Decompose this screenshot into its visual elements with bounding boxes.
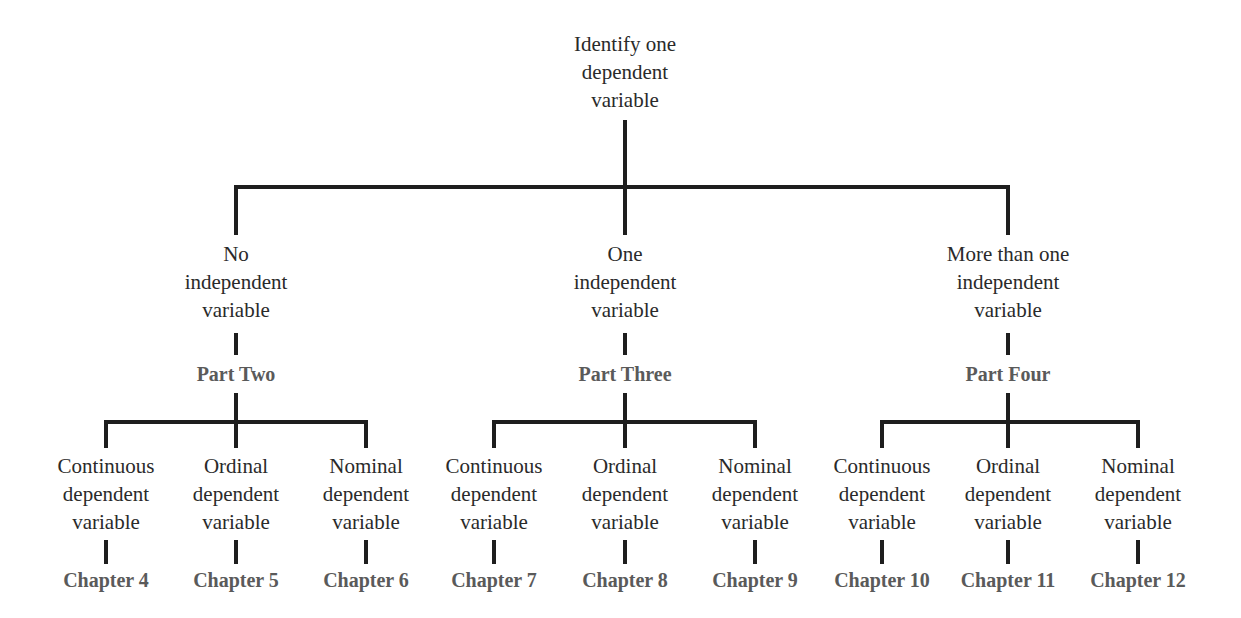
leaf-node-nominal: Nominal dependent variable xyxy=(323,452,409,536)
leaf-drop xyxy=(364,420,368,448)
leaf-line: variable xyxy=(965,508,1051,536)
leaf-drop xyxy=(492,420,496,448)
root-node: Identify one dependent variable xyxy=(574,30,676,114)
branch-1-part-stem xyxy=(234,333,238,355)
chapter-stem xyxy=(104,540,108,564)
leaf-line: dependent xyxy=(1095,480,1181,508)
part-label: Part Two xyxy=(197,362,276,386)
leaf-line: variable xyxy=(834,508,931,536)
chapter-label: Chapter 11 xyxy=(961,568,1056,592)
leaf-line: variable xyxy=(446,508,543,536)
leaf-node-nominal: Nominal dependent variable xyxy=(1095,452,1181,536)
top-bar xyxy=(234,185,1010,189)
leaf-line: dependent xyxy=(582,480,668,508)
branch-3-part-stem xyxy=(1006,333,1010,355)
leaf-line: variable xyxy=(582,508,668,536)
leaf-line: Ordinal xyxy=(193,452,279,480)
leaf-line: Ordinal xyxy=(965,452,1051,480)
branch-3-drop xyxy=(1006,185,1010,235)
leaf-node-continuous: Continuous dependent variable xyxy=(834,452,931,536)
leaf-line: variable xyxy=(58,508,155,536)
branch-line: variable xyxy=(185,296,288,324)
leaf-line: variable xyxy=(712,508,798,536)
root-line-2: dependent xyxy=(574,58,676,86)
leaf-drop xyxy=(104,420,108,448)
chapter-stem xyxy=(623,540,627,564)
leaf-line: Nominal xyxy=(1095,452,1181,480)
leaf-drop xyxy=(1136,420,1140,448)
leaf-drop xyxy=(1006,420,1010,448)
chapter-stem xyxy=(364,540,368,564)
leaf-line: Continuous xyxy=(834,452,931,480)
leaf-line: dependent xyxy=(446,480,543,508)
leaf-line: dependent xyxy=(834,480,931,508)
leaf-line: dependent xyxy=(58,480,155,508)
chapter-stem xyxy=(1136,540,1140,564)
chapter-label: Chapter 5 xyxy=(193,568,279,592)
chapter-label: Chapter 4 xyxy=(63,568,149,592)
leaf-node-ordinal: Ordinal dependent variable xyxy=(582,452,668,536)
chapter-label: Chapter 8 xyxy=(582,568,668,592)
branch-node-multi-iv: More than one independent variable xyxy=(947,240,1069,324)
part-label: Part Three xyxy=(578,362,671,386)
leaf-drop xyxy=(234,420,238,448)
chapter-label: Chapter 12 xyxy=(1090,568,1186,592)
branch-2-part-stem xyxy=(623,333,627,355)
leaf-node-nominal: Nominal dependent variable xyxy=(712,452,798,536)
branch-line: More than one xyxy=(947,240,1069,268)
root-line-3: variable xyxy=(574,86,676,114)
leaf-line: Continuous xyxy=(58,452,155,480)
leaf-node-ordinal: Ordinal dependent variable xyxy=(965,452,1051,536)
chapter-label: Chapter 7 xyxy=(451,568,537,592)
branch-line: independent xyxy=(947,268,1069,296)
branch-line: variable xyxy=(947,296,1069,324)
leaf-drop xyxy=(753,420,757,448)
chapter-label: Chapter 9 xyxy=(712,568,798,592)
leaf-drop xyxy=(880,420,884,448)
leaf-node-continuous: Continuous dependent variable xyxy=(58,452,155,536)
branch-line: One xyxy=(574,240,677,268)
branch-node-no-iv: No independent variable xyxy=(185,240,288,324)
leaf-node-ordinal: Ordinal dependent variable xyxy=(193,452,279,536)
chapter-stem xyxy=(753,540,757,564)
branch-node-one-iv: One independent variable xyxy=(574,240,677,324)
branch-3-sub-bar xyxy=(880,420,1140,424)
chapter-stem xyxy=(234,540,238,564)
leaf-line: variable xyxy=(1095,508,1181,536)
leaf-line: Nominal xyxy=(323,452,409,480)
branch-line: No xyxy=(185,240,288,268)
branch-line: independent xyxy=(185,268,288,296)
branch-line: variable xyxy=(574,296,677,324)
root-stem xyxy=(623,120,627,189)
leaf-line: dependent xyxy=(712,480,798,508)
branch-line: independent xyxy=(574,268,677,296)
branch-2-drop xyxy=(623,185,627,235)
root-line-1: Identify one xyxy=(574,30,676,58)
leaf-drop xyxy=(623,420,627,448)
chapter-stem xyxy=(492,540,496,564)
chapter-stem xyxy=(880,540,884,564)
leaf-line: variable xyxy=(323,508,409,536)
part-label: Part Four xyxy=(966,362,1051,386)
leaf-line: variable xyxy=(193,508,279,536)
leaf-line: dependent xyxy=(965,480,1051,508)
branch-1-drop xyxy=(234,185,238,235)
chapter-label: Chapter 6 xyxy=(323,568,409,592)
leaf-line: dependent xyxy=(323,480,409,508)
leaf-line: Continuous xyxy=(446,452,543,480)
leaf-node-continuous: Continuous dependent variable xyxy=(446,452,543,536)
chapter-stem xyxy=(1006,540,1010,564)
leaf-line: dependent xyxy=(193,480,279,508)
leaf-line: Ordinal xyxy=(582,452,668,480)
leaf-line: Nominal xyxy=(712,452,798,480)
chapter-label: Chapter 10 xyxy=(834,568,930,592)
